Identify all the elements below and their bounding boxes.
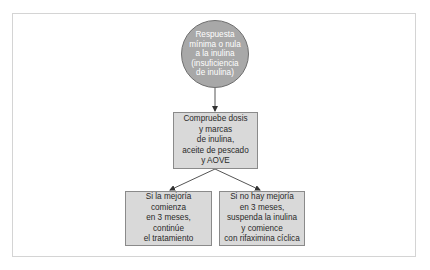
check-node-line: de inulina, — [182, 135, 248, 145]
improvement-node-line: en 3 meses, — [144, 213, 194, 223]
outcome-improvement-node: Si la mejoría comienza en 3 meses, conti… — [125, 191, 212, 246]
check-node-line: aceite de pescado — [182, 146, 248, 156]
check-dose-node: Compruebe dosis y marcas de inulina, ace… — [173, 112, 258, 169]
improvement-node-line: comienza — [144, 203, 194, 213]
no-improvement-node-line: en 3 meses, — [224, 203, 300, 213]
no-improvement-node-line: Si no hay mejoría — [224, 192, 300, 202]
start-node-line: Respuesta — [189, 30, 240, 39]
start-node-line: mínima o nula — [189, 40, 240, 49]
start-node-line: de inulina) — [189, 68, 240, 77]
start-node-line: a la inulina — [189, 49, 240, 58]
check-node-line: Compruebe dosis — [182, 114, 248, 124]
no-improvement-node-line: y comience — [224, 224, 300, 234]
check-node-line: y AOVE — [182, 156, 248, 166]
start-node-insufficient-inulin-response: Respuesta mínima o nula a la inulina (in… — [181, 20, 249, 88]
improvement-node-line: continúe — [144, 224, 194, 234]
start-node-line: (insuficiencia — [189, 59, 240, 68]
improvement-node-line: Si la mejoría — [144, 192, 194, 202]
no-improvement-node-line: con rifaximina cíclica — [224, 234, 300, 244]
improvement-node-line: el tratamiento — [144, 234, 194, 244]
outcome-no-improvement-node: Si no hay mejoría en 3 meses, suspenda l… — [219, 191, 305, 246]
check-node-line: y marcas — [182, 125, 248, 135]
no-improvement-node-line: suspenda la inulina — [224, 213, 300, 223]
